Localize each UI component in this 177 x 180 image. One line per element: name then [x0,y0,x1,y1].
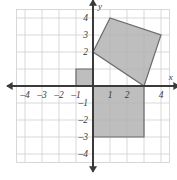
plot-svg: –4–3–2–1124432–1–2–3–4 xy [0,0,177,180]
y-tick-label: 3 [82,30,88,40]
x-tick-label: –2 [53,90,64,100]
x-tick-label: 2 [125,90,130,100]
y-tick-label: –4 [78,149,89,159]
x-tick-label: 4 [159,90,164,100]
y-tick-label: –2 [78,115,89,125]
y-tick-label: 4 [83,13,88,23]
y-tick-label: 2 [83,47,88,57]
x-tick-label: –3 [36,90,47,100]
y-axis-label: y [97,1,102,11]
large-square [93,86,144,137]
x-axis-label: x [168,72,173,82]
x-tick-label: 1 [108,90,113,100]
small-square [76,69,93,86]
y-tick-label: –1 [78,98,89,108]
coordinate-plane-figure: –4–3–2–1124432–1–2–3–4 xy [0,0,177,180]
y-tick-label: –3 [78,132,89,142]
x-tick-label: –4 [19,90,30,100]
